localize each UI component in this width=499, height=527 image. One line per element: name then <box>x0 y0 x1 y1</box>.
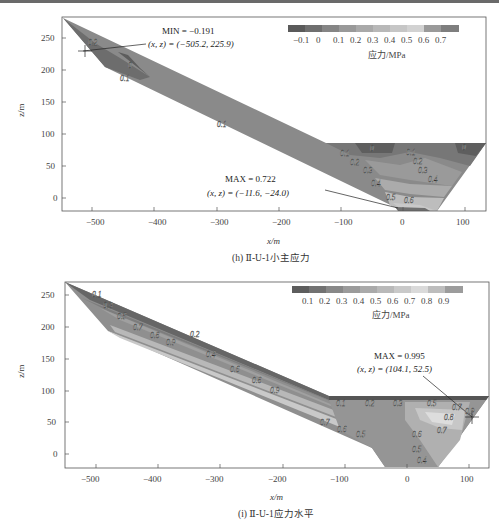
chart-i: −500 −400 −300 −200 −100 0 100 0 50 100 … <box>16 282 489 520</box>
svg-text:0.7: 0.7 <box>435 35 447 45</box>
i-xtick-label: −500 <box>81 474 100 484</box>
svg-text:0.7: 0.7 <box>320 418 330 427</box>
svg-text:0.5: 0.5 <box>356 430 366 439</box>
svg-text:0.8: 0.8 <box>252 376 262 385</box>
svg-text:0.2: 0.2 <box>88 38 98 47</box>
svg-text:0.2: 0.2 <box>319 296 330 306</box>
svg-text:0.8: 0.8 <box>444 413 454 422</box>
svg-text:0.7: 0.7 <box>437 426 447 435</box>
i-ytick-label: 250 <box>41 290 55 300</box>
svg-text:0.2: 0.2 <box>413 157 423 166</box>
figure-canvas: −500 −400 −300 −200 −100 0 100 0 50 100 … <box>0 0 499 527</box>
svg-text:0.7: 0.7 <box>452 403 462 412</box>
h-x-axis-label: x/m <box>266 236 280 246</box>
i-xtick-label: −100 <box>330 474 349 484</box>
i-xtick-label: −300 <box>205 474 224 484</box>
svg-text:0.9: 0.9 <box>438 296 450 306</box>
h-ytick-label: 0 <box>53 193 58 203</box>
svg-text:0.3: 0.3 <box>393 399 403 408</box>
i-xtick-label: −200 <box>268 474 287 484</box>
svg-text:0.5: 0.5 <box>427 399 437 408</box>
h-ytick-label: 200 <box>41 65 55 75</box>
svg-text:0.1: 0.1 <box>120 74 129 83</box>
svg-text:0.9: 0.9 <box>270 386 280 395</box>
h-xtick-label: 100 <box>456 217 470 227</box>
svg-text:0.8: 0.8 <box>150 331 160 340</box>
i-ytick-label: 150 <box>41 354 55 364</box>
svg-text:0.2: 0.2 <box>365 399 375 408</box>
i-ytick-label: 100 <box>41 386 55 396</box>
i-max-label: MAX = 0.995 <box>374 351 425 361</box>
svg-text:0.4: 0.4 <box>206 350 216 359</box>
h-ytick-label: 100 <box>41 129 55 139</box>
i-max-coords: (x, z) = (104.1, 52.5) <box>357 364 432 374</box>
svg-text:0.7: 0.7 <box>404 296 416 306</box>
svg-text:0.1: 0.1 <box>217 120 226 129</box>
h-caption: (h) Ⅱ-U-1小主应力 <box>232 252 310 264</box>
svg-text:0.3: 0.3 <box>363 166 373 175</box>
i-zone-08 <box>108 331 372 440</box>
svg-text:0: 0 <box>316 35 321 45</box>
svg-text:0.4: 0.4 <box>384 35 396 45</box>
svg-text:0.2: 0.2 <box>190 330 200 339</box>
i-y-axis-label: z/m <box>16 365 26 379</box>
h-min-label: MIN = −0.191 <box>162 26 214 36</box>
i-caption: (i) Ⅱ-U-1应力水平 <box>238 508 314 520</box>
svg-text:0.2: 0.2 <box>350 158 360 167</box>
svg-text:0.4: 0.4 <box>428 175 438 184</box>
svg-text:0.8: 0.8 <box>421 296 433 306</box>
svg-text:0.1: 0.1 <box>333 35 344 45</box>
svg-text:0.4: 0.4 <box>417 456 427 465</box>
h-xtick-label: −200 <box>272 217 291 227</box>
h-y-ticks <box>62 38 66 198</box>
h-ytick-label: 250 <box>41 33 55 43</box>
i-ytick-label: 200 <box>41 322 55 332</box>
chart-h: −500 −400 −300 −200 −100 0 100 0 50 100 … <box>16 17 486 264</box>
svg-text:0.9: 0.9 <box>166 338 176 347</box>
svg-text:0.5: 0.5 <box>401 35 413 45</box>
i-xtick-label: 100 <box>460 474 474 484</box>
svg-text:0.6: 0.6 <box>337 425 347 434</box>
i-core-top <box>329 396 489 400</box>
i-x-axis-label: x/m <box>269 492 283 502</box>
svg-text:−0.1: −0.1 <box>293 35 309 45</box>
h-xtick-label: −500 <box>86 217 105 227</box>
svg-text:0.5: 0.5 <box>117 312 127 321</box>
svg-text:0.6: 0.6 <box>412 430 422 439</box>
svg-text:0.1: 0.1 <box>302 296 313 306</box>
svg-text:0.3: 0.3 <box>336 296 348 306</box>
svg-text:0: 0 <box>128 61 132 70</box>
svg-text:0.5: 0.5 <box>386 193 396 202</box>
svg-text:0.1: 0.1 <box>92 290 101 299</box>
h-colorbar-ticks: −0.1 0 0.1 0.2 0.3 0.4 0.5 0.6 0.7 <box>293 35 447 45</box>
svg-text:0.1: 0.1 <box>406 148 415 157</box>
i-ytick-label: 50 <box>47 417 57 427</box>
svg-text:0.9: 0.9 <box>465 407 475 416</box>
svg-text:0.3: 0.3 <box>367 35 379 45</box>
svg-text:0.3: 0.3 <box>418 166 428 175</box>
svg-text:0.1: 0.1 <box>340 149 349 158</box>
h-ytick-label: 50 <box>46 161 56 171</box>
h-min-coords: (x, z) = (−505.2, 225.9) <box>148 39 234 49</box>
h-xtick-label: −400 <box>148 217 167 227</box>
svg-text:0.3: 0.3 <box>103 301 113 310</box>
svg-text:0.6: 0.6 <box>418 35 430 45</box>
svg-text:0.6: 0.6 <box>230 365 240 374</box>
i-xtick-label: −400 <box>143 474 162 484</box>
h-colorbar-label: 应力/MPa <box>368 49 406 60</box>
i-zone-06 <box>110 325 370 430</box>
h-zone-00 <box>355 143 395 153</box>
svg-text:0.4: 0.4 <box>353 296 365 306</box>
svg-text:0.2: 0.2 <box>350 35 361 45</box>
svg-text:0.4: 0.4 <box>371 179 381 188</box>
h-xtick-label: −100 <box>334 217 353 227</box>
svg-text:0.6: 0.6 <box>387 296 399 306</box>
i-colorbar-ticks: 0.1 0.2 0.3 0.4 0.5 0.6 0.7 0.8 0.9 <box>302 296 450 306</box>
h-max-label: MAX = 0.722 <box>225 174 276 184</box>
svg-text:0.5: 0.5 <box>370 296 382 306</box>
h-max-coords: (x, z) = (−11.6, −24.0) <box>207 188 289 198</box>
i-xtick-label: 0 <box>405 474 410 484</box>
svg-text:0: 0 <box>462 143 466 152</box>
i-y-ticks <box>65 295 69 454</box>
h-colorbar <box>288 25 459 32</box>
